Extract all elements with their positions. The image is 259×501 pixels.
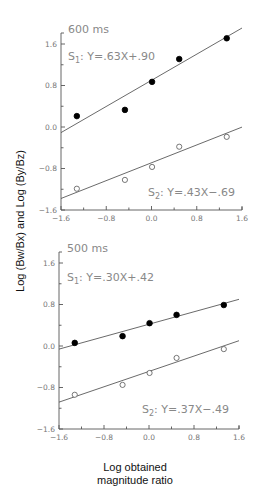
filled-data-point xyxy=(72,340,78,346)
open-data-point xyxy=(224,134,229,139)
filled-data-point xyxy=(224,35,230,41)
filled-data-point xyxy=(149,79,155,85)
x-axis-label-line2: magnitude ratio xyxy=(60,474,210,487)
filled-data-point xyxy=(221,302,227,308)
panel-500ms: 1.60.80.0−0.8−1.6−1.6−0.80.00.81.6500 ms… xyxy=(37,242,245,442)
panel-title: 500 ms xyxy=(67,242,108,255)
filled-data-point xyxy=(174,312,180,318)
equation-s2: S2: Y=.37X−.49 xyxy=(142,403,229,418)
x-axis-label-line1: Log obtained xyxy=(60,461,210,474)
y-tick-label: 1.6 xyxy=(45,40,57,49)
x-tick-label: 0.8 xyxy=(188,433,200,442)
open-data-point xyxy=(149,164,154,169)
x-tick-label: −1.6 xyxy=(50,433,68,442)
open-data-point xyxy=(221,347,226,352)
equation-s2: S2: Y=.43X−.69 xyxy=(148,186,235,201)
open-data-point xyxy=(174,355,179,360)
open-data-point xyxy=(120,382,125,387)
filled-data-point xyxy=(122,107,128,113)
x-tick-label: 1.6 xyxy=(236,214,248,223)
filled-data-point xyxy=(120,333,126,339)
open-data-point xyxy=(74,186,79,191)
filled-data-point xyxy=(74,113,80,119)
y-tick-label: −0.8 xyxy=(39,164,57,173)
filled-data-point xyxy=(147,320,153,326)
figure-canvas: 1.60.80.0−0.8−1.6−1.6−0.80.00.81.6600 ms… xyxy=(0,0,259,501)
open-data-point xyxy=(122,177,127,182)
x-axis-label: Log obtained magnitude ratio xyxy=(60,461,210,487)
open-data-point xyxy=(177,144,182,149)
open-data-point xyxy=(147,370,152,375)
y-tick-label: 0.0 xyxy=(45,123,57,132)
open-data-point xyxy=(72,392,77,397)
y-tick-label: −0.8 xyxy=(37,383,55,392)
y-tick-label: 0.8 xyxy=(43,300,55,309)
x-tick-label: 0.0 xyxy=(143,433,155,442)
panel-title: 600 ms xyxy=(68,23,109,36)
equation-s1: S1: Y=.63X+.90 xyxy=(68,50,155,65)
x-tick-label: 0.8 xyxy=(191,214,203,223)
x-tick-label: −1.6 xyxy=(52,214,70,223)
x-tick-label: 0.0 xyxy=(146,214,158,223)
filled-data-point xyxy=(176,56,182,62)
y-tick-label: 0.0 xyxy=(43,342,55,351)
y-tick-label: 0.8 xyxy=(45,81,57,90)
y-tick-label: 1.6 xyxy=(43,259,55,268)
y-axis-label: Log (Bw/Bx) and Log (By/Bz) xyxy=(14,141,26,301)
x-tick-label: 1.6 xyxy=(233,433,245,442)
x-tick-label: −0.8 xyxy=(95,433,113,442)
x-tick-label: −0.8 xyxy=(97,214,115,223)
equation-s1: S1: Y=.30X+.42 xyxy=(67,271,154,286)
panel-600ms: 1.60.80.0−0.8−1.6−1.6−0.80.00.81.6600 ms… xyxy=(39,23,248,223)
